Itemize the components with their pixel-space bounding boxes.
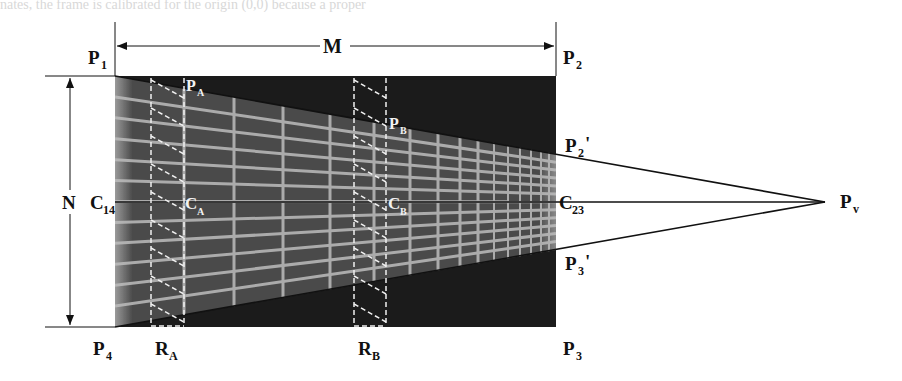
label-pv: Pv bbox=[840, 191, 859, 216]
svg-text:R: R bbox=[358, 338, 372, 359]
svg-text:1: 1 bbox=[101, 58, 107, 72]
label-p3-prime: P3' bbox=[565, 251, 590, 278]
svg-text:4: 4 bbox=[106, 349, 112, 363]
svg-text:P: P bbox=[563, 338, 575, 359]
svg-text:P: P bbox=[186, 77, 196, 94]
perspective-grid-diagram: M N P1 P2 P3 P4 P2' P3' Pv C14 C23 PA PB… bbox=[0, 0, 902, 381]
svg-text:P: P bbox=[840, 191, 852, 212]
svg-text:P: P bbox=[389, 115, 399, 132]
svg-text:A: A bbox=[197, 206, 205, 217]
label-p1: P1 bbox=[88, 47, 107, 72]
svg-text:': ' bbox=[585, 251, 590, 272]
svg-text:R: R bbox=[155, 338, 169, 359]
label-c14: C14 bbox=[90, 192, 115, 217]
svg-text:C: C bbox=[388, 194, 400, 213]
svg-text:B: B bbox=[372, 349, 380, 363]
label-p3: P3 bbox=[563, 338, 582, 363]
svg-text:A: A bbox=[197, 87, 205, 98]
label-ra: RA bbox=[155, 338, 178, 363]
svg-text:P: P bbox=[88, 47, 100, 68]
label-c23: C23 bbox=[559, 192, 584, 217]
label-rb: RB bbox=[358, 338, 380, 363]
svg-text:P: P bbox=[93, 338, 105, 359]
svg-text:3: 3 bbox=[576, 349, 582, 363]
arrowhead-icon bbox=[66, 78, 74, 88]
svg-text:3: 3 bbox=[578, 264, 584, 278]
svg-text:14: 14 bbox=[103, 203, 115, 217]
arrowhead-icon bbox=[117, 42, 127, 50]
svg-text:2: 2 bbox=[578, 146, 584, 160]
svg-text:': ' bbox=[585, 133, 590, 154]
svg-text:C: C bbox=[185, 194, 197, 213]
label-p2-prime: P2' bbox=[565, 133, 590, 160]
label-n: N bbox=[62, 192, 76, 213]
svg-text:B: B bbox=[400, 206, 407, 217]
svg-text:C: C bbox=[559, 192, 573, 213]
label-p4: P4 bbox=[93, 338, 112, 363]
arrowhead-icon bbox=[544, 42, 554, 50]
svg-text:P: P bbox=[563, 47, 575, 68]
svg-text:C: C bbox=[90, 192, 104, 213]
svg-text:v: v bbox=[853, 202, 859, 216]
label-p2: P2 bbox=[563, 47, 582, 72]
svg-text:2: 2 bbox=[576, 58, 582, 72]
svg-text:P: P bbox=[565, 135, 577, 156]
svg-text:P: P bbox=[565, 253, 577, 274]
arrowhead-icon bbox=[66, 315, 74, 325]
svg-text:23: 23 bbox=[572, 203, 584, 217]
svg-text:B: B bbox=[400, 125, 407, 136]
svg-text:A: A bbox=[169, 349, 178, 363]
label-m: M bbox=[323, 35, 342, 57]
